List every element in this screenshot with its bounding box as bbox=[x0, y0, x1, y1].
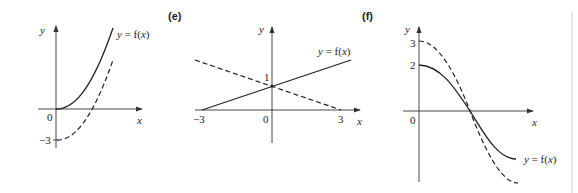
dashed-line bbox=[195, 60, 341, 110]
tick-label-neg3: −3 bbox=[39, 134, 51, 146]
dashed-curve bbox=[57, 60, 113, 140]
y-axis-label: y bbox=[258, 23, 264, 35]
panel-label: (e) bbox=[168, 10, 182, 22]
origin-label: 0 bbox=[263, 113, 269, 125]
figure: y y = f(x) 0 x −3 (e) y y = f(x) 1 −3 0 … bbox=[0, 0, 578, 193]
solid-curve bbox=[419, 65, 516, 159]
graph-panel-d: y y = f(x) 0 x −3 bbox=[38, 24, 150, 148]
x-axis-label: x bbox=[136, 114, 142, 126]
panel-label: (f) bbox=[362, 10, 373, 22]
curve-label: y = f(x) bbox=[523, 153, 557, 166]
tick-label-3: 3 bbox=[338, 113, 344, 125]
dashed-curve bbox=[419, 41, 518, 183]
intersection-point bbox=[270, 84, 273, 87]
origin-label: 0 bbox=[410, 114, 416, 126]
curve-label: y = f(x) bbox=[317, 45, 351, 58]
origin-label: 0 bbox=[47, 111, 53, 123]
tick-label-2: 2 bbox=[410, 59, 416, 71]
curve-label: y = f(x) bbox=[116, 28, 150, 41]
x-axis-label: x bbox=[356, 115, 362, 127]
y-axis-label: y bbox=[39, 24, 45, 36]
tick-label-1: 1 bbox=[264, 71, 270, 83]
tick-label-neg3: −3 bbox=[193, 113, 205, 125]
solid-curve bbox=[56, 28, 113, 109]
solid-line bbox=[202, 60, 351, 110]
graph-panel-e: (e) y y = f(x) 1 −3 0 3 x bbox=[168, 10, 362, 143]
x-axis-label: x bbox=[531, 116, 537, 128]
graph-panel-f: (f) y 3 2 0 x y = f(x) bbox=[362, 10, 557, 183]
tick-label-3: 3 bbox=[410, 37, 416, 49]
y-axis-label: y bbox=[404, 23, 410, 35]
